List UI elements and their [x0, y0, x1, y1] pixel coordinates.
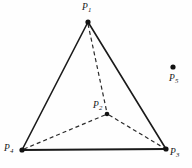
- vertex-dot-p3: [163, 146, 168, 151]
- vertex-label-p4: P4: [4, 144, 13, 154]
- vertex-label-p5-text: P: [169, 73, 175, 83]
- tetrahedron-drawing: [0, 0, 192, 168]
- vertex-label-p2-subscript: 2: [99, 104, 102, 111]
- solid-edges-group: [22, 22, 166, 150]
- vertex-label-p2: P2: [93, 101, 102, 111]
- vertex-label-p1: P1: [82, 3, 91, 13]
- vertex-dot-p4: [19, 147, 24, 152]
- vertex-dot-p1: [85, 19, 90, 24]
- vertex-label-p1-text: P: [82, 2, 88, 12]
- vertex-label-p3-text: P: [170, 147, 176, 157]
- vertex-label-p4-text: P: [4, 143, 10, 153]
- edge-p4-p3: [22, 149, 166, 150]
- edge-p2-p4: [24, 115, 105, 149]
- vertex-label-p3-subscript: 3: [176, 151, 179, 158]
- edge-p1-p3: [88, 22, 166, 149]
- vertex-dots-group: [19, 19, 175, 152]
- vertex-label-p4-subscript: 4: [10, 147, 13, 154]
- vertex-label-p3: P3: [170, 148, 179, 158]
- vertex-label-p5: P5: [169, 74, 178, 84]
- edge-p1-p4: [22, 22, 88, 150]
- vertex-dot-p2: [105, 112, 110, 117]
- tetrahedron-figure: P1 P2 P3 P4 P5: [0, 0, 192, 168]
- vertex-dot-p5: [170, 64, 175, 69]
- vertex-label-p1-subscript: 1: [88, 6, 91, 13]
- vertex-label-p2-text: P: [93, 100, 99, 110]
- dashed-edges-group: [24, 24, 164, 149]
- vertex-label-p5-subscript: 5: [175, 77, 178, 84]
